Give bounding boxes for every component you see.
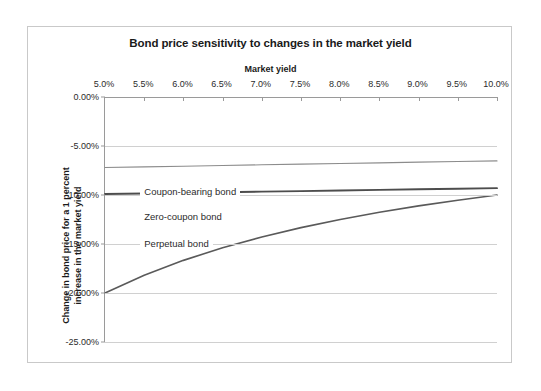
y-axis-tick-mark bbox=[101, 97, 105, 98]
x-axis-tick-mark bbox=[183, 97, 184, 101]
y-axis-tick-label: -5.00% bbox=[70, 141, 99, 151]
x-axis-tick-label: 7.0% bbox=[239, 79, 283, 89]
y-axis-tick-mark bbox=[101, 244, 105, 245]
x-axis-tick-mark bbox=[379, 97, 380, 101]
y-axis-tick-label: -20.00% bbox=[65, 288, 99, 298]
series-label: Coupon-bearing bond bbox=[140, 185, 240, 198]
x-axis-tick-label: 6.5% bbox=[200, 79, 244, 89]
x-axis-tick-label: 8.0% bbox=[317, 79, 361, 89]
x-axis-tick-mark bbox=[458, 97, 459, 101]
series-label: Perpetual bond bbox=[140, 236, 212, 249]
x-axis-tick-mark bbox=[144, 97, 145, 101]
x-axis-title: Market yield bbox=[28, 64, 513, 74]
y-axis-tick-label: -10.00% bbox=[65, 190, 99, 200]
x-axis-tick-label: 5.5% bbox=[121, 79, 165, 89]
x-axis-tick-label: 6.0% bbox=[160, 79, 204, 89]
x-axis-tick-mark bbox=[262, 97, 263, 101]
series-line bbox=[105, 161, 497, 168]
y-axis-tick-mark bbox=[101, 342, 105, 343]
x-axis-tick-label: 10.0% bbox=[474, 79, 518, 89]
x-axis-tick-mark bbox=[419, 97, 420, 101]
gridline-y bbox=[105, 293, 497, 294]
x-axis-tick-mark bbox=[340, 97, 341, 101]
plot-area: 0.00%-5.00%-10.00%-15.00%-20.00%-25.00%C… bbox=[104, 97, 497, 342]
series-label: Zero-coupon bond bbox=[140, 209, 226, 222]
x-axis-tick-mark bbox=[301, 97, 302, 101]
x-axis-tick-label: 7.5% bbox=[278, 79, 322, 89]
y-axis-tick-mark bbox=[101, 293, 105, 294]
gridline-y bbox=[105, 146, 497, 147]
x-axis-tick-mark bbox=[223, 97, 224, 101]
x-axis-tick-label: 5.0% bbox=[82, 79, 126, 89]
y-axis-tick-mark bbox=[101, 195, 105, 196]
x-axis-tick-label: 9.0% bbox=[396, 79, 440, 89]
x-axis-tick-label: 9.5% bbox=[435, 79, 479, 89]
chart-title: Bond price sensitivity to changes in the… bbox=[28, 37, 513, 49]
y-axis-tick-mark bbox=[101, 146, 105, 147]
y-axis-tick-label: 0.00% bbox=[73, 92, 99, 102]
x-axis-tick-label: 8.5% bbox=[356, 79, 400, 89]
gridline-y bbox=[105, 342, 497, 343]
y-axis-tick-label: -15.00% bbox=[65, 239, 99, 249]
x-axis-tick-labels: 5.0%5.5%6.0%6.5%7.0%7.5%8.0%8.5%9.0%9.5%… bbox=[104, 79, 503, 93]
chart-frame: Bond price sensitivity to changes in the… bbox=[27, 26, 512, 363]
x-axis-tick-mark bbox=[497, 97, 498, 101]
y-axis-tick-label: -25.00% bbox=[65, 337, 99, 347]
